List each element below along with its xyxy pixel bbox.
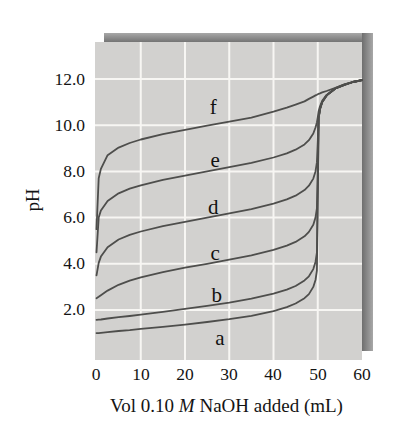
x-tick-20: 20	[165, 363, 205, 385]
y-tick-2: 2.0	[36, 298, 85, 320]
curve-label-a: a	[211, 326, 229, 350]
x-tick-40: 40	[253, 363, 293, 385]
x-tick-50: 50	[298, 363, 338, 385]
titration-figure: 12.0 10.0 8.0 6.0 4.0 2.0 0 10 20 30 40 …	[0, 0, 393, 435]
x-tick-30: 30	[209, 363, 249, 385]
x-axis-title-suffix: NaOH added (mL)	[195, 395, 343, 416]
x-axis-title-prefix: Vol 0.10	[110, 395, 179, 416]
curve-label-f: f	[204, 95, 222, 119]
y-axis-title: pH	[11, 178, 55, 222]
x-tick-60: 60	[342, 363, 382, 385]
curve-label-e: e	[206, 148, 224, 172]
x-axis-title: Vol 0.10 M NaOH added (mL)	[60, 395, 393, 417]
y-tick-12: 12.0	[36, 68, 85, 90]
y-tick-10: 10.0	[36, 114, 85, 136]
curve-label-c: c	[206, 241, 224, 265]
x-tick-0: 0	[76, 363, 116, 385]
y-tick-4: 4.0	[36, 252, 85, 274]
curve-label-b: b	[208, 283, 226, 307]
curve-label-d: d	[204, 195, 222, 219]
x-tick-10: 10	[121, 363, 161, 385]
x-axis-title-molarity: M	[179, 395, 195, 416]
